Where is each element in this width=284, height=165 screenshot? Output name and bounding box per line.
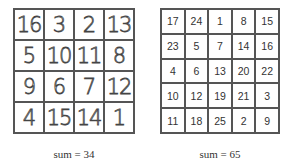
square-cell: 16 [14,9,44,40]
square-cell: 6 [185,59,209,84]
magic-square-5x5: 1724181523571416461320221012192131118252… [160,8,280,134]
square-cell: 5 [185,34,209,59]
square-cell: 20 [232,59,256,84]
square-cell: 1 [104,102,134,133]
square-cell: 15 [255,9,279,34]
square-cell: 10 [161,83,185,108]
square-cell: 5 [14,40,44,71]
square-cell: 4 [161,59,185,84]
square-cell: 3 [44,9,74,40]
square-cell: 23 [161,34,185,59]
square-cell: 13 [104,9,134,40]
square-cell: 21 [232,83,256,108]
square-cell: 1 [208,9,232,34]
square-cell: 25 [208,108,232,133]
square-cell: 9 [14,71,44,102]
magic-square-4x4: 16321351011896712415141 [13,8,135,134]
square-cell: 9 [255,108,279,133]
square-cell: 12 [185,83,209,108]
square-cell: 4 [14,102,44,133]
sum-caption-5x5: sum = 65 [160,148,280,160]
square-cell: 14 [74,102,104,133]
square-cell: 11 [161,108,185,133]
square-cell: 2 [74,9,104,40]
square-cell: 19 [208,83,232,108]
square-cell: 24 [185,9,209,34]
square-cell: 18 [185,108,209,133]
square-cell: 6 [44,71,74,102]
square-cell: 11 [74,40,104,71]
square-cell: 10 [44,40,74,71]
square-cell: 8 [104,40,134,71]
square-cell: 14 [232,34,256,59]
square-cell: 12 [104,71,134,102]
square-cell: 13 [208,59,232,84]
square-cell: 17 [161,9,185,34]
square-cell: 7 [74,71,104,102]
square-cell: 2 [232,108,256,133]
square-cell: 7 [208,34,232,59]
square-cell: 15 [44,102,74,133]
sum-caption-4x4: sum = 34 [13,148,135,160]
square-cell: 3 [255,83,279,108]
square-cell: 16 [255,34,279,59]
square-cell: 8 [232,9,256,34]
square-cell: 22 [255,59,279,84]
